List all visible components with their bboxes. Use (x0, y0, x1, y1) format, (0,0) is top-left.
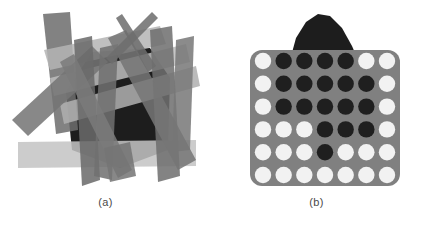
led-cell-r6-c2-on (275, 167, 291, 183)
led-cell-r1-c3-off (296, 53, 312, 69)
led-cell-r6-c7-on (379, 167, 395, 183)
led-cell-r2-c4-off (317, 76, 333, 92)
led-cell-r2-c7-on (379, 76, 395, 92)
led-cell-r4-c3-on (296, 121, 312, 137)
led-cell-r1-c1-on (255, 53, 271, 69)
panel-a-canvas (0, 0, 211, 198)
led-cell-r2-c1-on (255, 76, 271, 92)
led-cell-r4-c7-on (379, 121, 395, 137)
led-cell-r2-c6-off (358, 76, 374, 92)
led-cell-r1-c6-on (358, 53, 374, 69)
led-cell-r6-c3-on (296, 167, 312, 183)
panel-b-canvas (211, 0, 422, 198)
led-cell-r1-c4-off (317, 53, 333, 69)
led-cell-r3-c3-off (296, 98, 312, 114)
panel-b-caption: (b) (211, 196, 422, 208)
led-cell-r3-c2-off (275, 98, 291, 114)
led-cell-r2-c2-off (275, 76, 291, 92)
led-cell-r4-c2-on (275, 121, 291, 137)
led-cell-r5-c6-on (358, 144, 374, 160)
led-cell-r5-c4-off (317, 144, 333, 160)
led-cell-r6-c1-on (255, 167, 271, 183)
led-cell-r3-c6-off (358, 98, 374, 114)
figure-container: (a) (b) (0, 0, 422, 235)
led-cell-r2-c5-off (337, 76, 353, 92)
led-cell-r4-c6-off (358, 121, 374, 137)
led-cell-r4-c5-off (337, 121, 353, 137)
led-cell-r5-c3-on (296, 144, 312, 160)
led-cell-r6-c6-on (358, 167, 374, 183)
figure-panel-a: (a) (0, 0, 211, 235)
led-cell-r6-c4-on (317, 167, 333, 183)
led-cell-r5-c2-on (275, 144, 291, 160)
led-cell-r3-c7-on (379, 98, 395, 114)
panel-a-caption: (a) (0, 196, 211, 208)
led-cell-r4-c1-on (255, 121, 271, 137)
led-cell-r1-c5-off (337, 53, 353, 69)
led-cell-r2-c3-off (296, 76, 312, 92)
led-cell-r1-c2-off (275, 53, 291, 69)
led-cell-r4-c4-off (317, 121, 333, 137)
led-cell-r5-c5-on (337, 144, 353, 160)
figure-panel-b: (b) (211, 0, 422, 235)
led-cell-r5-c1-on (255, 144, 271, 160)
led-cell-r3-c1-on (255, 98, 271, 114)
led-cell-r6-c5-on (337, 167, 353, 183)
panel-a-shape-group (12, 12, 200, 186)
led-cell-r3-c4-off (317, 98, 333, 114)
led-cell-r3-c5-off (337, 98, 353, 114)
led-cell-r5-c7-on (379, 144, 395, 160)
led-panel-background (250, 50, 400, 186)
led-cell-r1-c7-on (379, 53, 395, 69)
